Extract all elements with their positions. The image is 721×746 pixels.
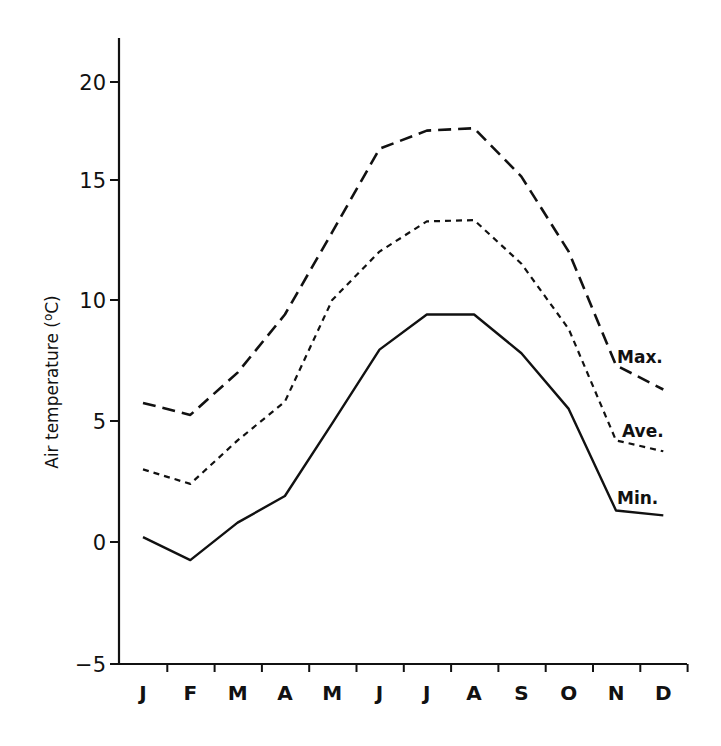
- month-label: J: [421, 681, 430, 705]
- x-ticks: JFMAMJJASOND: [137, 664, 687, 705]
- air-temperature-chart: 20151050−5 JFMAMJJASOND Max.Ave.Min. Air…: [0, 0, 721, 746]
- series-min-line: [143, 315, 663, 561]
- y-tick-label: 15: [79, 169, 106, 193]
- month-label: J: [137, 681, 146, 705]
- series-label-min: Min.: [617, 488, 658, 508]
- month-label: S: [514, 681, 528, 705]
- month-label: O: [560, 681, 577, 705]
- series-lines: [143, 128, 663, 560]
- month-label: A: [466, 681, 482, 705]
- month-label: N: [608, 681, 625, 705]
- series-max-line: [143, 128, 663, 415]
- y-ticks: 20151050−5: [75, 71, 119, 677]
- month-label: D: [655, 681, 672, 705]
- y-axis-title: Air temperature (oC): [41, 295, 62, 469]
- series-label-max: Max.: [617, 347, 663, 367]
- series-label-ave: Ave.: [622, 421, 664, 441]
- month-label: A: [277, 681, 293, 705]
- month-label: F: [183, 681, 197, 705]
- series-labels: Max.Ave.Min.: [617, 347, 664, 508]
- y-tick-label: 0: [93, 531, 106, 555]
- axes: [119, 38, 687, 664]
- month-label: M: [322, 681, 342, 705]
- y-tick-label: 20: [79, 71, 106, 95]
- month-label: M: [228, 681, 248, 705]
- y-tick-label: −5: [75, 653, 106, 677]
- month-label: J: [374, 681, 383, 705]
- y-tick-label: 10: [79, 289, 106, 313]
- y-tick-label: 5: [93, 410, 106, 434]
